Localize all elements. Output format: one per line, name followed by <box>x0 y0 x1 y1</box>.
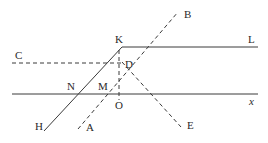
label-k: K <box>115 33 123 45</box>
geometry-diagram: K L B C D N M O x H A E <box>0 0 268 143</box>
label-o: O <box>115 99 123 111</box>
line-ab <box>78 12 178 129</box>
label-m: M <box>98 80 108 92</box>
label-c: C <box>15 49 22 61</box>
label-b: B <box>184 8 191 20</box>
label-a: A <box>86 121 94 133</box>
label-d: D <box>125 58 133 70</box>
line-hk <box>44 47 122 131</box>
label-h: H <box>35 120 43 132</box>
label-n: N <box>67 80 75 92</box>
label-l: L <box>248 33 255 45</box>
label-e: E <box>187 119 194 131</box>
label-x: x <box>248 95 254 107</box>
